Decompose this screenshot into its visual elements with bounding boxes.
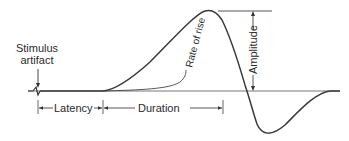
latency-label: Latency [54, 102, 93, 114]
action-potential-diagram: Stimulus artifact Rate of rise Amplitude… [0, 0, 349, 141]
stimulus-label-line2: artifact [20, 54, 53, 66]
duration-label: Duration [138, 102, 180, 114]
stimulus-label-line1: Stimulus [16, 42, 59, 54]
action-potential-trace [40, 10, 340, 133]
amplitude-label: Amplitude [247, 25, 259, 74]
